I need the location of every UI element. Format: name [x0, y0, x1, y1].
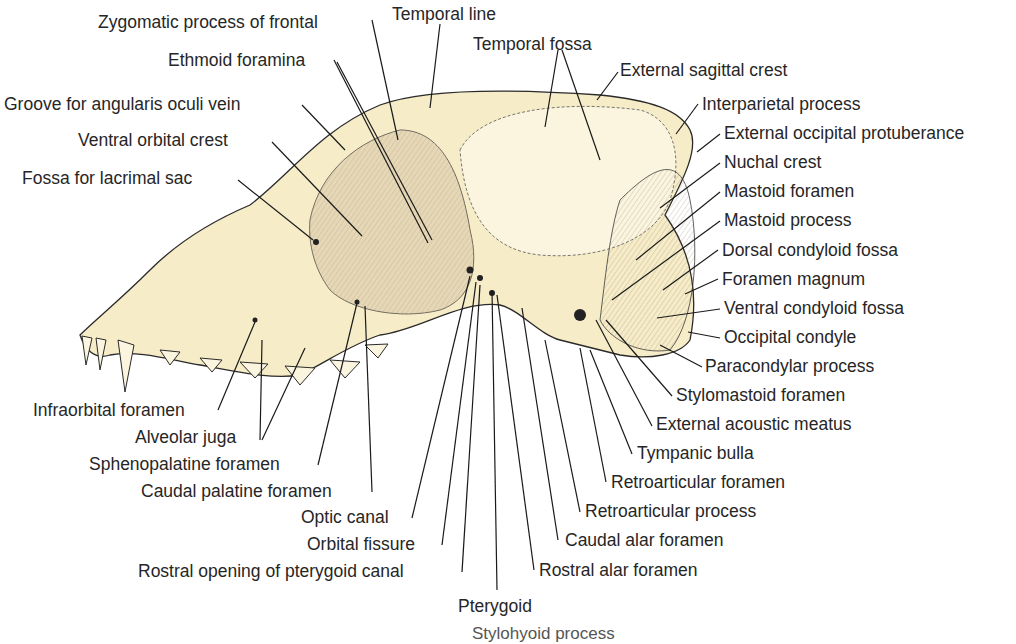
- label-ventral-condyloid-fossa: Ventral condyloid fossa: [724, 298, 904, 318]
- label-zygomatic-process-of-frontal: Zygomatic process of frontal: [98, 12, 318, 32]
- label-caudal-alar-foramen: Caudal alar foramen: [565, 530, 724, 550]
- label-rostral-alar-foramen: Rostral alar foramen: [539, 560, 698, 580]
- label-paracondylar-process: Paracondylar process: [705, 356, 874, 376]
- label-optic-canal: Optic canal: [301, 507, 389, 527]
- label-temporal-line: Temporal line: [392, 4, 496, 24]
- label-rostral-opening-of-pterygoid-canal: Rostral opening of pterygoid canal: [138, 561, 404, 581]
- label-foramen-magnum: Foramen magnum: [722, 269, 865, 289]
- label-dorsal-condyloid-fossa: Dorsal condyloid fossa: [722, 240, 898, 260]
- label-pterygoid: Pterygoid: [458, 596, 532, 616]
- label-mastoid-process: Mastoid process: [724, 210, 851, 230]
- label-fossa-for-lacrimal-sac: Fossa for lacrimal sac: [22, 168, 192, 188]
- label-tympanic-bulla: Tympanic bulla: [637, 443, 754, 463]
- label-ethmoid-foramina: Ethmoid foramina: [168, 50, 305, 70]
- label-groove-for-angularis-oculi-vein: Groove for angularis oculi vein: [4, 94, 240, 114]
- label-alveolar-juga: Alveolar juga: [135, 427, 236, 447]
- label-external-occipital-protuberance: External occipital protuberance: [724, 123, 964, 143]
- label-stylomastoid-foramen: Stylomastoid foramen: [676, 385, 845, 405]
- label-occipital-condyle: Occipital condyle: [724, 327, 856, 347]
- label-ventral-orbital-crest: Ventral orbital crest: [78, 130, 228, 150]
- label-orbital-fissure: Orbital fissure: [307, 534, 415, 554]
- label-retroarticular-foramen: Retroarticular foramen: [611, 472, 785, 492]
- label-mastoid-foramen: Mastoid foramen: [724, 181, 854, 201]
- label-external-sagittal-crest: External sagittal crest: [620, 60, 787, 80]
- label-interparietal-process: Interparietal process: [702, 94, 861, 114]
- label-stylohyoid-process-cut: Stylohyoid process: [472, 624, 615, 644]
- label-retroarticular-process: Retroarticular process: [585, 501, 756, 521]
- label-nuchal-crest: Nuchal crest: [724, 152, 821, 172]
- label-sphenopalatine-foramen: Sphenopalatine foramen: [89, 454, 280, 474]
- label-infraorbital-foramen: Infraorbital foramen: [33, 400, 185, 420]
- label-external-acoustic-meatus: External acoustic meatus: [656, 414, 852, 434]
- label-temporal-fossa: Temporal fossa: [473, 34, 592, 54]
- label-caudal-palatine-foramen: Caudal palatine foramen: [141, 481, 332, 501]
